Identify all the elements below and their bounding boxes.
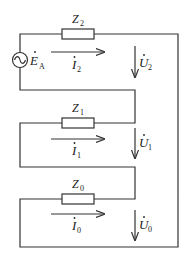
svg-text:E: E: [29, 53, 38, 68]
current-arrow-i0: I 0: [51, 214, 104, 235]
source-label: E A: [29, 51, 45, 71]
svg-text:1: 1: [77, 151, 81, 160]
svg-text:0: 0: [77, 226, 81, 235]
voltage-arrow-u2: U 2: [135, 46, 152, 77]
svg-text:0: 0: [80, 184, 84, 193]
svg-text:Z: Z: [72, 101, 79, 115]
ac-source-icon: [13, 53, 28, 68]
circuit-diagram: E A Z 2 I 2 U 2 Z 1 I 1 U 1 Z: [0, 0, 194, 257]
voltage-arrow-u1: U 1: [135, 128, 152, 158]
svg-text:2: 2: [77, 65, 81, 74]
impedance-z1: Z 1: [62, 101, 94, 128]
svg-text:1: 1: [148, 143, 152, 152]
svg-text:Z: Z: [72, 12, 79, 26]
current-arrow-i1: I 1: [51, 139, 104, 160]
svg-text:2: 2: [148, 63, 152, 72]
circuit-svg: E A Z 2 I 2 U 2 Z 1 I 1 U 1 Z: [0, 0, 194, 257]
svg-text:2: 2: [80, 19, 84, 28]
svg-text:Z: Z: [72, 177, 79, 191]
svg-text:1: 1: [80, 108, 84, 117]
svg-text:0: 0: [148, 225, 152, 234]
current-arrow-i2: I 2: [51, 52, 104, 74]
impedance-z0: Z 0: [62, 177, 94, 204]
impedance-z2: Z 2: [62, 12, 94, 39]
svg-text:A: A: [39, 62, 45, 71]
voltage-arrow-u0: U 0: [135, 210, 152, 240]
